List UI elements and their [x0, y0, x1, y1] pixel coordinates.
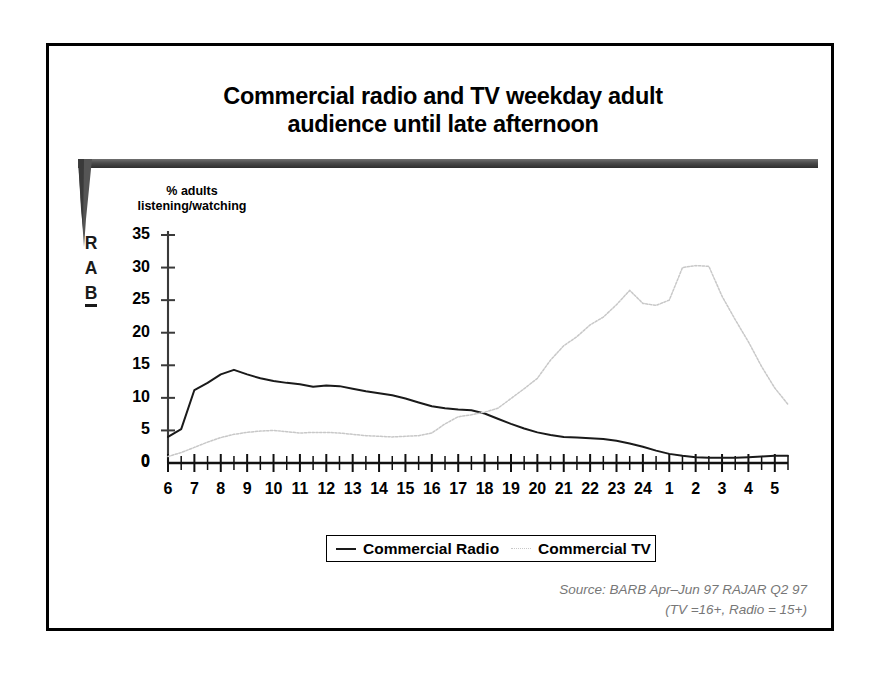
x-axis-tick-label: 5 — [760, 480, 790, 498]
y-axis-tick-label: 20 — [116, 323, 150, 341]
chart-legend: Commercial Radio Commercial TV — [326, 535, 656, 562]
slide-frame: Commercial radio and TV weekday adult au… — [46, 43, 834, 631]
series-line-commercial-tv — [168, 266, 788, 457]
legend-swatch-radio-icon — [336, 548, 356, 550]
legend-label-radio: Commercial Radio — [363, 540, 499, 558]
y-axis-tick-label: 25 — [116, 290, 150, 308]
y-axis-tick-label: 35 — [116, 225, 150, 243]
source-line-2: (TV =16+, Radio = 15+) — [379, 600, 807, 620]
legend-swatch-tv-icon — [511, 548, 531, 549]
y-axis-tick-label: 0 — [116, 452, 150, 470]
legend-item-tv: Commercial TV — [511, 540, 651, 558]
y-axis-tick-label: 15 — [116, 355, 150, 373]
legend-label-tv: Commercial TV — [538, 540, 651, 558]
y-axis-tick-label: 5 — [116, 420, 150, 438]
source-note: Source: BARB Apr–Jun 97 RAJAR Q2 97 (TV … — [379, 580, 807, 619]
legend-item-radio: Commercial Radio — [336, 540, 499, 558]
y-axis-tick-label: 30 — [116, 258, 150, 276]
y-axis-tick-label: 10 — [116, 388, 150, 406]
source-line-1: Source: BARB Apr–Jun 97 RAJAR Q2 97 — [379, 580, 807, 600]
